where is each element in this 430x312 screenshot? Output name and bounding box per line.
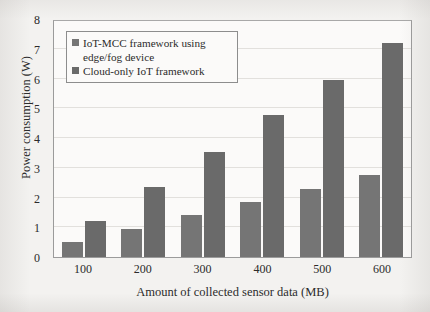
y-axis-title: Power consumption (W) [19,18,34,218]
x-tick-label: 500 [292,262,352,277]
legend-swatch-icon [72,67,79,74]
bar[interactable] [62,242,83,257]
bar[interactable] [121,229,142,257]
bar[interactable] [359,175,380,257]
bar[interactable] [382,43,403,257]
bar[interactable] [144,187,165,257]
bar-group [292,21,352,257]
chart-legend: IoT-MCC framework using edge/fog device … [66,31,238,83]
bar[interactable] [85,221,106,257]
legend-swatch-icon [72,39,79,46]
chart-figure: 012345678 100200300400500600 Power consu… [0,0,430,312]
y-tick-label: 0 [34,251,40,266]
y-tick-label: 7 [34,42,40,57]
bar[interactable] [323,80,344,257]
x-tick-label: 100 [53,262,113,277]
bar[interactable] [263,115,284,257]
legend-item-label: IoT-MCC framework using edge/fog device [83,36,232,64]
y-tick-label: 6 [34,72,40,87]
bar[interactable] [240,202,261,257]
y-tick-label: 8 [34,13,40,28]
legend-item: Cloud-only IoT framework [72,64,232,78]
x-axis-ticks: 100200300400500600 [53,262,412,277]
bar-group [233,21,293,257]
y-tick-label: 5 [34,102,40,117]
x-tick-label: 200 [113,262,173,277]
bar[interactable] [181,215,202,257]
y-tick-label: 2 [34,191,40,206]
x-tick-label: 600 [352,262,412,277]
bar-group [352,21,412,257]
legend-item: IoT-MCC framework using edge/fog device [72,36,232,64]
bar[interactable] [300,189,321,257]
x-tick-label: 300 [173,262,233,277]
x-tick-label: 400 [232,262,292,277]
bar[interactable] [204,152,225,257]
legend-item-label: Cloud-only IoT framework [83,64,232,78]
x-axis-title: Amount of collected sensor data (MB) [53,285,412,300]
y-tick-label: 3 [34,161,40,176]
y-tick-label: 1 [34,221,40,236]
y-tick-label: 4 [34,132,40,147]
